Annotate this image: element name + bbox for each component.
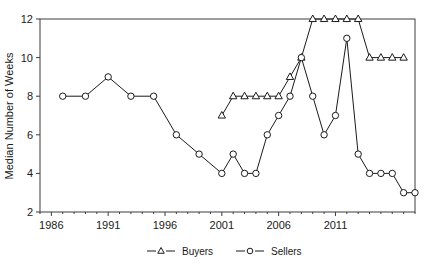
legend-label: Sellers <box>271 246 302 257</box>
y-tick-label: 6 <box>27 129 33 141</box>
circle-icon <box>219 170 225 176</box>
circle-icon <box>241 170 247 176</box>
chart-canvas: 24681012 198619911996200120062011 Median… <box>0 0 428 268</box>
circle-icon <box>310 93 316 99</box>
circle-icon <box>105 74 111 80</box>
legend-label: Buyers <box>182 246 213 257</box>
circle-icon <box>82 93 88 99</box>
x-tick-label: 1986 <box>39 219 63 231</box>
circle-icon <box>366 170 372 176</box>
circle-icon <box>298 54 304 60</box>
circle-icon <box>128 93 134 99</box>
circle-icon <box>355 151 361 157</box>
x-tick-label: 2001 <box>210 219 234 231</box>
circle-icon <box>150 93 156 99</box>
circle-icon <box>173 132 179 138</box>
x-tick-label: 2011 <box>324 219 348 231</box>
circle-icon <box>400 190 406 196</box>
y-tick-label: 4 <box>27 167 33 179</box>
circle-icon <box>230 151 236 157</box>
y-tick-label: 10 <box>21 52 33 64</box>
circle-icon <box>253 170 259 176</box>
y-tick-label: 2 <box>27 206 33 218</box>
circle-icon <box>264 132 270 138</box>
y-tick-label: 8 <box>27 90 33 102</box>
y-tick-label: 12 <box>21 13 33 25</box>
circle-icon <box>60 93 66 99</box>
circle-icon <box>332 112 338 118</box>
circle-icon <box>196 151 202 157</box>
circle-icon <box>275 112 281 118</box>
circle-icon <box>412 190 418 196</box>
circle-icon <box>247 248 253 254</box>
circle-icon <box>344 35 350 41</box>
chart-figure: 24681012 198619911996200120062011 Median… <box>0 0 428 268</box>
circle-icon <box>378 170 384 176</box>
x-tick-label: 1991 <box>96 219 120 231</box>
x-tick-label: 1996 <box>153 219 177 231</box>
circle-icon <box>321 132 327 138</box>
x-tick-label: 2006 <box>266 219 290 231</box>
circle-icon <box>287 93 293 99</box>
y-axis-title: Median Number of Weeks <box>3 52 15 179</box>
circle-icon <box>389 170 395 176</box>
